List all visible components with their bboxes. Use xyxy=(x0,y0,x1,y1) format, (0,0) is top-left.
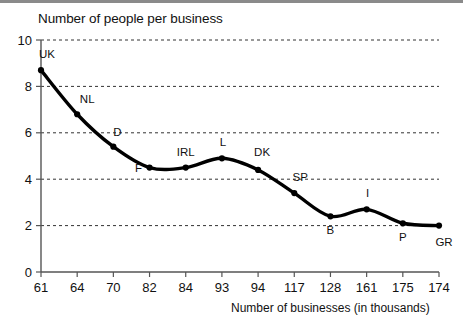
data-point-marker xyxy=(38,67,44,73)
y-tick-label: 0 xyxy=(25,265,32,280)
data-series-line xyxy=(41,70,439,225)
data-point-marker xyxy=(436,223,442,229)
data-point-label: P xyxy=(399,231,407,243)
x-tick-label: 70 xyxy=(106,280,120,295)
x-tick-label: 61 xyxy=(34,280,48,295)
data-point-marker xyxy=(291,190,297,196)
data-point-marker xyxy=(400,220,406,226)
data-point-marker xyxy=(219,155,225,161)
data-point-label: DK xyxy=(254,146,270,158)
data-point-marker xyxy=(146,165,152,171)
data-point-marker xyxy=(183,165,189,171)
x-tick-label: 82 xyxy=(142,280,156,295)
y-tick-label: 8 xyxy=(25,79,32,94)
x-tick-label: 117 xyxy=(284,280,305,295)
data-point-marker xyxy=(110,144,116,150)
x-axis-title: Number of businesses (in thousands) xyxy=(231,301,430,315)
data-point-label: L xyxy=(220,136,227,148)
x-tick-label: 174 xyxy=(428,280,450,295)
data-point-marker xyxy=(255,167,261,173)
x-tick-label: 84 xyxy=(178,280,192,295)
data-point-label: IRL xyxy=(177,146,196,158)
x-tick-label: 128 xyxy=(320,280,342,295)
data-point-label: B xyxy=(327,224,335,236)
x-tick-label: 94 xyxy=(251,280,265,295)
y-tick-label: 4 xyxy=(25,172,32,187)
data-point-marker xyxy=(327,213,333,219)
data-point-label: I xyxy=(366,187,369,199)
data-point-label: SP xyxy=(293,171,309,183)
x-tick-label: 161 xyxy=(356,280,378,295)
y-tick-label: 6 xyxy=(25,125,32,140)
data-point-label: NL xyxy=(80,93,95,105)
chart-container: Number of people per business 0246810616… xyxy=(0,0,463,329)
data-point-marker xyxy=(74,111,80,117)
x-tick-label: 175 xyxy=(392,280,414,295)
y-tick-label: 10 xyxy=(18,33,32,48)
y-tick-label: 2 xyxy=(25,218,32,233)
data-point-label: GR xyxy=(435,236,452,248)
x-tick-label: 93 xyxy=(215,280,229,295)
data-point-label: F xyxy=(135,162,142,174)
line-chart-plot: 024681061647082849394117128161175174UKNL… xyxy=(0,0,463,329)
data-point-label: D xyxy=(113,126,121,138)
data-point-marker xyxy=(364,206,370,212)
x-tick-label: 64 xyxy=(70,280,84,295)
data-point-label: UK xyxy=(39,48,55,60)
